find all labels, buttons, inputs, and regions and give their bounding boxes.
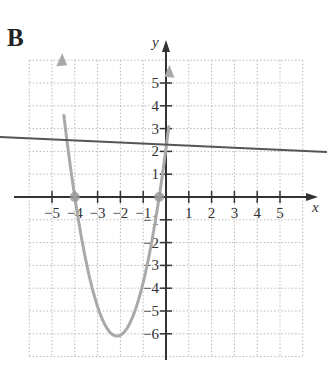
x-axis-label: x	[311, 199, 319, 215]
x-tick-label: 1	[185, 205, 193, 221]
straight-line	[0, 137, 327, 152]
y-tick-label: 4	[152, 98, 160, 114]
x-tick-label: −2	[112, 205, 128, 221]
x-intercept-point	[154, 192, 164, 202]
y-axis-arrow-icon	[162, 40, 170, 52]
x-tick-label: −3	[90, 205, 106, 221]
x-tick-label: −5	[44, 205, 60, 221]
y-tick-label: 2	[152, 143, 160, 159]
y-tick-label: 5	[152, 75, 160, 91]
y-tick-label: 1	[152, 166, 160, 182]
x-tick-label: 5	[276, 205, 284, 221]
coordinate-plane: xy−5−4−3−2−11234554321−1−2−3−4−5−6	[0, 0, 327, 366]
x-tick-label: 3	[231, 205, 239, 221]
y-tick-label: −6	[143, 326, 159, 342]
y-axis-label: y	[150, 34, 159, 50]
x-tick-label: 4	[253, 205, 261, 221]
x-intercept-point	[70, 192, 80, 202]
x-tick-label: 2	[208, 205, 216, 221]
y-tick-label: 3	[152, 121, 160, 137]
y-tick-label: −5	[143, 303, 159, 319]
y-tick-label: −4	[143, 280, 159, 296]
